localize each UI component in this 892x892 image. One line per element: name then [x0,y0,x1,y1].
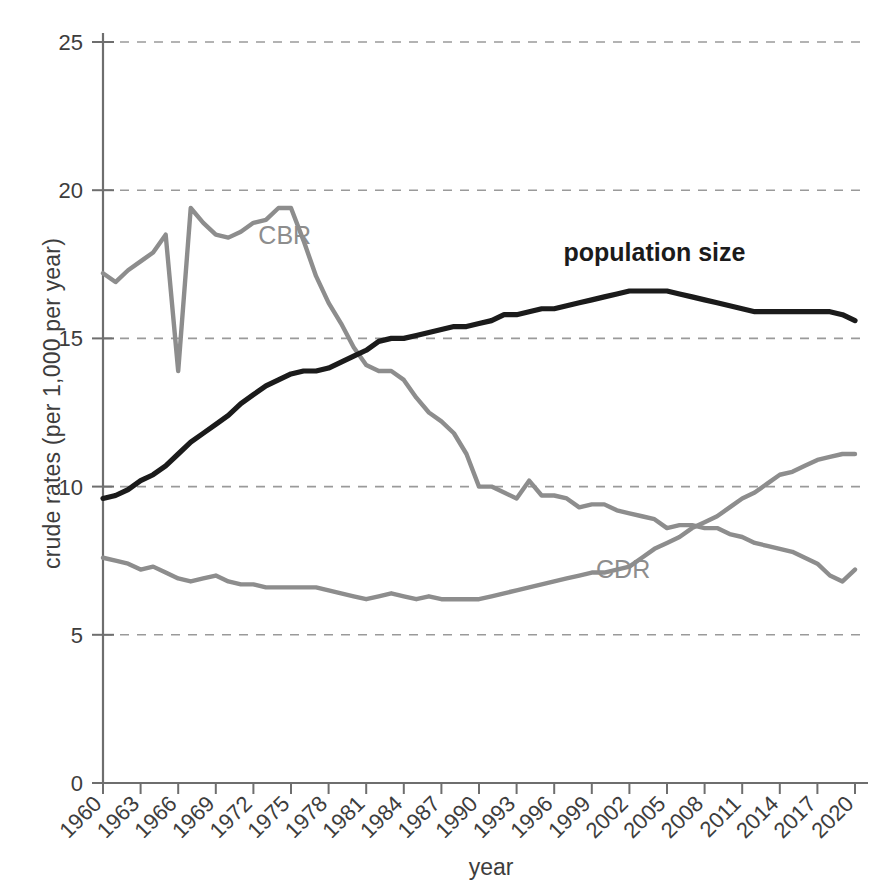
x-axis-ticks: 1960196319661969197219751978198119841987… [54,783,858,843]
y-tick-label: 0 [71,771,83,796]
x-tick-label: 1990 [430,791,482,843]
x-tick-label: 1984 [355,791,407,843]
gridlines [103,42,868,635]
x-tick-label: 1966 [129,791,181,843]
x-tick-label: 2011 [695,791,746,842]
x-tick-label: 2008 [656,791,708,843]
y-tick-label: 15 [59,326,83,351]
y-tick-label: 5 [71,623,83,648]
x-axis-title: year [0,854,892,881]
series-label-cbr: CBR [258,221,311,249]
x-tick-label: 1981 [317,791,369,843]
x-tick-label: 1996 [505,791,557,843]
x-tick-label: 1960 [54,791,106,843]
x-tick-label: 1975 [242,791,294,843]
x-tick-label: 2014 [731,791,783,843]
axes [103,33,868,783]
x-tick-label: 1963 [92,791,144,843]
series-label-cdr: CDR [596,555,650,583]
y-tick-label: 25 [59,30,83,55]
series-lines [103,208,855,599]
series-line-cdr [103,454,855,599]
line-chart-plot: 0510152025 19601963196619691972197519781… [0,0,892,892]
y-tick-label: 20 [59,178,83,203]
x-tick-label: 1993 [468,791,520,843]
series-label-population-size: population size [563,238,745,266]
x-tick-label: 2017 [769,791,821,843]
chart-figure: 0510152025 19601963196619691972197519781… [0,0,892,892]
series-line-population-size [103,291,855,498]
x-tick-label: 1987 [393,791,445,843]
x-tick-label: 2020 [806,791,858,843]
x-tick-label: 2005 [618,791,670,843]
x-tick-label: 1972 [205,791,257,843]
x-axis-title-text: year [469,854,514,881]
x-tick-label: 2002 [581,791,633,843]
x-tick-label: 1978 [280,791,332,843]
y-tick-label: 10 [59,475,83,500]
y-axis-ticks: 0510152025 [59,30,114,796]
x-tick-label: 1969 [167,791,219,843]
x-tick-label: 1999 [543,791,595,843]
